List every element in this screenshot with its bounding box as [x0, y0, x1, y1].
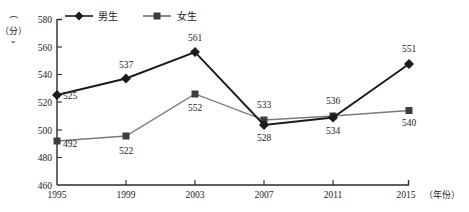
y-tick-label-500: 500 — [38, 126, 53, 136]
female-point-1995 — [54, 138, 61, 145]
male-label-1995: 525 — [63, 91, 78, 101]
legend-label-male: 男生 — [98, 10, 118, 22]
male-label-1999: 537 — [119, 60, 134, 70]
y-tick-label-520: 520 — [38, 98, 53, 108]
x-tick-label-2003: 2003 — [186, 190, 205, 200]
female-label-2015: 540 — [402, 118, 417, 128]
x-tick-label-2011: 2011 — [324, 190, 343, 200]
female-label-1995: 492 — [63, 139, 78, 149]
chart-background — [0, 0, 469, 212]
x-tick-label-2015: 2015 — [397, 190, 416, 200]
male-label-2003: 561 — [188, 33, 203, 43]
line-chart: 男生 女生 ⌒ （分） ⌄ — [0, 0, 469, 212]
x-tick-label-1999: 1999 — [117, 190, 136, 200]
y-unit-paren-open: ⌒ — [9, 16, 18, 26]
legend-label-female: 女生 — [177, 10, 197, 22]
square-marker-icon — [154, 13, 161, 20]
x-tick-label-1995: 1995 — [48, 190, 67, 200]
y-tick-label-460: 460 — [38, 181, 53, 191]
female-point-2003 — [192, 91, 199, 98]
female-point-1999 — [123, 133, 130, 140]
x-tick-label-2007: 2007 — [255, 190, 274, 200]
y-tick-label-540: 540 — [38, 70, 53, 80]
y-unit-paren-close: ⌄ — [9, 35, 17, 45]
male-label-2015: 551 — [402, 44, 417, 54]
male-label-2011: 534 — [326, 126, 341, 136]
female-label-1999: 522 — [119, 146, 134, 156]
male-label-2007: 528 — [257, 133, 272, 143]
x-axis-unit-label: （年份） — [424, 189, 460, 200]
chart-canvas: 男生 女生 ⌒ （分） ⌄ — [0, 0, 469, 212]
y-tick-label-480: 480 — [38, 153, 53, 163]
female-point-2015 — [406, 107, 413, 114]
female-label-2007: 533 — [257, 100, 272, 110]
y-tick-label-560: 560 — [38, 43, 53, 53]
female-label-2011: 536 — [326, 96, 341, 106]
y-tick-label-580: 580 — [38, 15, 53, 25]
female-label-2003: 552 — [188, 103, 203, 113]
